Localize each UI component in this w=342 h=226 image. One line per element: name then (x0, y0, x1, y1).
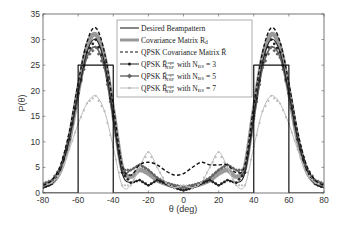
series-marker (226, 179, 229, 182)
series-marker (171, 185, 173, 187)
series-marker (68, 138, 71, 141)
series-marker (279, 51, 282, 54)
series-marker (264, 54, 267, 57)
y-tick-label: 30 (31, 35, 41, 45)
series-marker (285, 78, 288, 81)
x-tick-label: 60 (284, 195, 294, 205)
series-marker (241, 184, 243, 186)
series-marker (97, 46, 100, 49)
series-marker (156, 179, 159, 182)
series-marker (235, 184, 237, 186)
series-marker (80, 116, 82, 118)
series-marker (264, 105, 266, 107)
series-marker (59, 171, 61, 173)
series-marker (241, 175, 244, 178)
series-marker (150, 156, 152, 158)
series-marker (127, 184, 129, 186)
series-marker (179, 185, 181, 187)
series-marker (86, 51, 89, 54)
x-tick-label: 80 (319, 195, 329, 205)
series-marker (214, 182, 217, 185)
series-marker (159, 180, 162, 183)
series-marker (144, 182, 147, 185)
series-marker (244, 184, 246, 186)
x-tick-label: -60 (72, 195, 85, 205)
series-marker (174, 187, 176, 189)
series-marker (91, 42, 94, 45)
y-tick-label: 35 (31, 9, 41, 19)
series-marker (168, 183, 170, 185)
series-marker (103, 61, 106, 64)
series-marker (100, 105, 102, 107)
series-marker (144, 156, 146, 158)
series-marker (223, 161, 225, 163)
series-marker (156, 166, 158, 168)
series-marker (220, 156, 222, 158)
series-marker (106, 79, 109, 82)
series-marker (103, 110, 105, 112)
series-marker (115, 159, 117, 161)
series-marker (270, 38, 273, 41)
series-marker (279, 102, 281, 104)
series-marker (229, 172, 231, 174)
series-marker (188, 186, 190, 188)
series-marker (118, 171, 120, 173)
x-tick-label: -40 (107, 195, 120, 205)
series-marker (256, 134, 258, 136)
series-marker (200, 182, 202, 184)
series-marker (276, 100, 278, 102)
series-marker (299, 156, 301, 158)
series-marker (215, 156, 217, 158)
series-marker (247, 171, 249, 173)
series-marker (62, 164, 64, 166)
beampattern-chart: -80-60-40-2002040608005101520253035 θ (d… (0, 0, 342, 226)
series-marker (126, 178, 129, 181)
svg-text:Covariance Matrix Rd: Covariance Matrix Rd (141, 36, 208, 46)
series-marker (305, 171, 307, 173)
series-marker (229, 180, 232, 183)
series-marker (89, 100, 91, 102)
y-tick-label: 10 (31, 137, 41, 147)
series-marker (98, 100, 100, 102)
series-marker (71, 140, 73, 142)
series-marker (133, 178, 135, 180)
y-tick-label: 5 (35, 162, 40, 172)
series-marker (124, 175, 127, 178)
series-marker (296, 138, 299, 141)
y-tick-label: 15 (31, 111, 41, 121)
series-marker (147, 184, 150, 187)
series-marker (80, 78, 83, 81)
series-marker (203, 181, 206, 184)
series-marker (95, 95, 97, 97)
dot-marker-icon (128, 62, 131, 65)
series-marker (209, 166, 211, 168)
series-marker (106, 122, 108, 124)
series-marker (314, 182, 316, 184)
series-marker (244, 171, 247, 174)
series-marker (302, 164, 304, 166)
series-marker (276, 47, 279, 50)
series-marker (217, 184, 220, 187)
series-marker (273, 97, 275, 99)
series-marker (147, 151, 149, 153)
series-marker (124, 184, 126, 186)
svg-text:Desired Beampattern: Desired Beampattern (141, 24, 206, 33)
series-marker (294, 140, 296, 142)
legend: Desired Beampattern Covariance Matrix Rd… (117, 20, 252, 97)
y-axis-label: P(θ) (17, 94, 27, 111)
series-marker (83, 109, 85, 111)
series-marker (203, 177, 205, 179)
x-tick-label: 20 (214, 195, 224, 205)
series-marker (65, 156, 67, 158)
series-marker (267, 46, 270, 49)
series-marker (130, 184, 132, 186)
series-marker (297, 148, 299, 150)
series-marker (92, 97, 94, 99)
y-tick-label: 0 (35, 188, 40, 198)
series-marker (135, 180, 138, 183)
series-marker (232, 178, 234, 180)
series-marker (162, 181, 165, 184)
series-marker (208, 179, 211, 182)
series-marker (57, 175, 59, 177)
series-marker (206, 180, 209, 183)
